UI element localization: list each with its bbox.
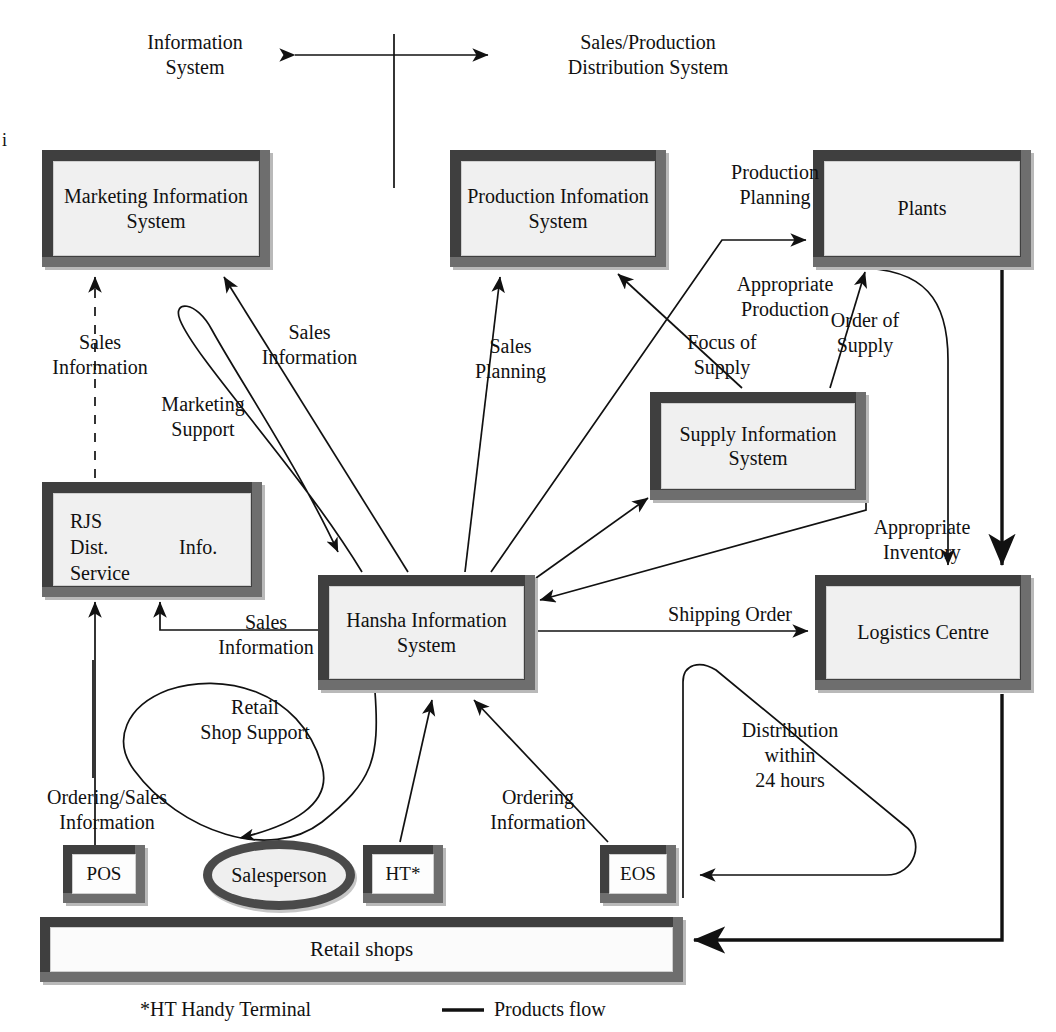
node-label: POS (72, 854, 136, 894)
header-right-label: Sales/Production Distribution System (508, 30, 788, 80)
label-ordering-information: Ordering Information (448, 785, 628, 835)
label-shipping-order: Shipping Order (640, 602, 820, 627)
label-focus-of-supply: Focus of Supply (652, 330, 792, 380)
label-sales-information-hansha-marketing: Sales Information (222, 320, 397, 370)
node-production-information-system[interactable]: Production Infomation System (450, 150, 666, 267)
node-pos[interactable]: POS (63, 845, 145, 903)
node-supply-information-system[interactable]: Supply Information System (650, 392, 866, 500)
node-retail-shops[interactable]: Retail shops (40, 917, 683, 982)
node-label: Logistics Centre (826, 586, 1020, 679)
node-label: HT* (372, 854, 434, 894)
label-sales-information-rjs: Sales Information (186, 610, 346, 660)
node-plants[interactable]: Plants (813, 150, 1031, 267)
label-sales-planning: Sales Planning (448, 334, 573, 384)
margin-artifact: i (2, 130, 7, 151)
node-rjs-dist-service[interactable]: RJS Dist. Service Info. (42, 482, 262, 597)
label-ordering-sales-information: Ordering/Sales Information (12, 785, 202, 835)
flow-hansha-to-production (465, 277, 500, 572)
header-left-label: Information System (80, 30, 310, 80)
node-eos[interactable]: EOS (600, 845, 676, 903)
label-distribution-24-hours: Distribution within 24 hours (700, 718, 880, 792)
node-logistics-centre[interactable]: Logistics Centre (815, 575, 1031, 690)
label-appropriate-inventory: Appropriate Inventory (838, 515, 1006, 565)
node-ht[interactable]: HT* (363, 845, 443, 903)
label-retail-shop-support: Retail Shop Support (160, 695, 350, 745)
node-hansha-information-system[interactable]: Hansha Information System (318, 575, 535, 690)
label-sales-information-marketing: Sales Information (20, 330, 180, 380)
node-label: EOS (609, 854, 667, 894)
node-salesperson[interactable]: Salesperson (203, 840, 355, 910)
flow-ht-to-hansha (400, 700, 432, 842)
node-label: Supply Information System (661, 403, 855, 489)
node-body: RJS Dist. Service Info. (53, 493, 251, 586)
label-order-of-supply: Order of Supply (800, 308, 930, 358)
node-label: Retail shops (50, 927, 673, 972)
diagram-canvas: Information System Sales/Production Dist… (0, 0, 1056, 1032)
legend-footnote: *HT Handy Terminal (140, 998, 311, 1021)
node-marketing-information-system[interactable]: Marketing Information System (42, 150, 270, 267)
node-label: Hansha Information System (329, 586, 524, 679)
legend-products-flow-label: Products flow (494, 998, 606, 1021)
label-marketing-support: Marketing Support (128, 392, 278, 442)
node-label: Production Infomation System (461, 161, 655, 256)
rjs-info-label: Info. (179, 534, 217, 560)
rjs-name-label: RJS Dist. Service (70, 508, 130, 586)
node-label: Plants (824, 161, 1020, 256)
node-label: Salesperson (212, 849, 346, 901)
flow-hansha-to-supply (536, 498, 648, 578)
node-label: Marketing Information System (53, 161, 259, 256)
